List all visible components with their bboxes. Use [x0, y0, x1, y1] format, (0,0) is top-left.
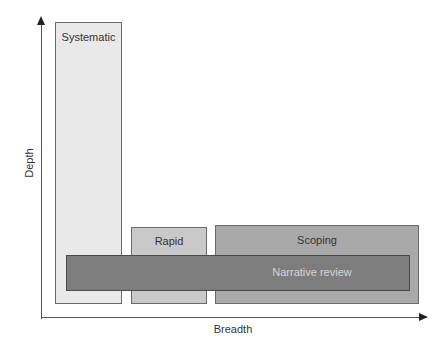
systematic-label: Systematic: [56, 31, 121, 43]
narrative-review-box: Narrative review: [66, 255, 410, 291]
x-axis-line: [41, 317, 421, 318]
y-axis-arrow-icon: [37, 16, 45, 25]
rapid-label: Rapid: [132, 235, 206, 247]
scoping-label: Scoping: [216, 234, 418, 246]
y-axis-label: Depth: [23, 143, 37, 183]
y-axis-line: [41, 24, 42, 319]
x-axis-label: Breadth: [200, 323, 266, 335]
narrative-label: Narrative review: [247, 266, 377, 278]
x-axis-arrow-icon: [419, 313, 428, 321]
